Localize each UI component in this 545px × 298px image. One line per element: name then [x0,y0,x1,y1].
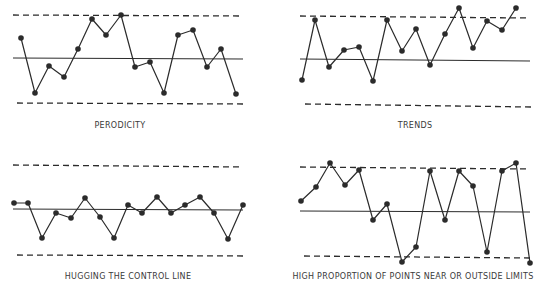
data-point [356,167,362,173]
data-point [313,184,319,190]
data-point [147,59,153,65]
data-point [527,260,533,266]
data-point [384,201,390,207]
data-point [513,160,519,166]
data-point [370,217,376,223]
data-point [513,5,519,11]
data-point [18,35,24,41]
data-point [442,217,448,223]
chart-caption: PERODICITY [95,121,146,130]
upper-control-limit [300,16,530,18]
data-point [182,202,188,208]
data-markers [298,160,533,266]
data-point [218,46,224,52]
data-point [204,64,210,70]
chart-periodicity: PERODICITY [13,12,245,130]
data-point [499,168,505,174]
upper-control-limit [13,165,243,167]
data-point [442,31,448,37]
data-point [456,168,462,174]
lower-control-limit [305,104,531,107]
chart-hugging-control-line: HUGGING THE CONTROL LINE [11,165,246,281]
data-point [499,27,505,33]
data-point [46,63,52,69]
data-point [25,200,31,206]
data-point [470,183,476,189]
lower-control-limit [17,255,244,256]
data-point [97,214,103,220]
data-point [456,5,462,11]
data-point [327,160,333,166]
data-point [399,48,405,54]
upper-control-limit [13,15,243,16]
data-point [211,210,217,216]
data-point [53,210,59,216]
data-point [11,200,17,206]
chart-caption: HUGGING THE CONTROL LINE [65,272,192,281]
data-point [154,194,160,200]
data-point [61,74,67,80]
data-point [341,47,347,53]
data-point [75,46,81,52]
data-series-line [302,8,516,81]
data-point [139,210,145,216]
data-point [190,27,196,33]
data-point [125,202,131,208]
data-point [32,90,38,96]
data-point [312,17,318,23]
data-point [326,64,332,70]
chart-caption: TRENDS [397,121,433,130]
control-chart-patterns: PERODICITY TRENDS HUGGING THE CONTROL LI… [0,0,545,298]
data-markers [11,194,246,242]
data-point [89,16,95,22]
data-point [111,235,117,241]
data-point [82,195,88,201]
data-point [356,44,362,50]
data-point [225,236,231,242]
data-point [298,198,304,204]
data-point [132,64,138,70]
data-point [342,182,348,188]
data-point [240,202,246,208]
chart-trends: TRENDS [299,5,531,130]
chart-near-outside-limits: HIGH PROPORTION OF POINTS NEAR OR OUTSID… [292,160,533,281]
data-point [161,90,167,96]
center-line [13,58,243,59]
data-point [427,168,433,174]
lower-control-limit [17,103,245,104]
data-point [484,18,490,24]
data-point [175,32,181,38]
data-point [299,77,305,83]
data-point [197,194,203,200]
data-point [470,45,476,51]
center-line [13,209,243,210]
data-point [233,91,239,97]
data-point [118,12,124,18]
data-point [39,235,45,241]
data-point [399,259,405,265]
data-point [370,78,376,84]
chart-caption: HIGH PROPORTION OF POINTS NEAR OR OUTSID… [292,272,533,281]
lower-control-limit [304,256,530,258]
data-point [413,26,419,32]
data-point [413,244,419,250]
data-point [484,249,490,255]
data-markers [18,12,239,97]
data-point [68,215,74,221]
data-point [427,62,433,68]
data-point [168,210,174,216]
data-point [384,17,390,23]
data-series-line [21,15,236,94]
data-point [103,32,109,38]
center-line [300,211,530,212]
